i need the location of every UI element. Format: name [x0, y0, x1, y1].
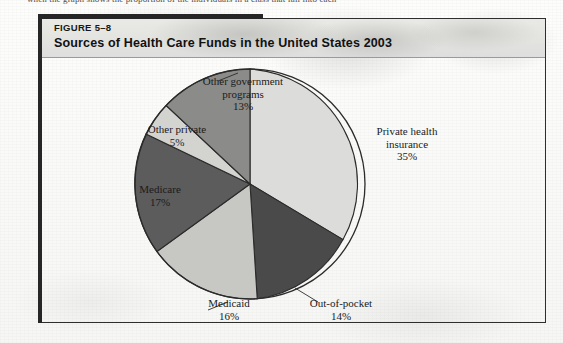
pie-value-out-of-pocket: 14%	[286, 310, 396, 323]
pie-label-private-health-insurance: Private health insurance 35%	[350, 125, 464, 163]
figure-header-banner: FIGURE 5–8 Sources of Health Care Funds …	[42, 19, 545, 58]
pie-chart-area: Other government programs 13% Other priv…	[42, 57, 545, 322]
pie-label-other-private-line1: Other private	[148, 123, 206, 135]
pie-label-private-insurance-line1: Private health	[377, 125, 438, 137]
figure-box: FIGURE 5–8 Sources of Health Care Funds …	[42, 18, 546, 323]
pie-label-medicare-line1: Medicare	[139, 183, 181, 195]
pie-value-other-private: 5%	[125, 136, 229, 149]
pie-label-other-private: Other private 5%	[125, 123, 229, 148]
figure-title: Sources of Health Care Funds in the Unit…	[54, 36, 392, 50]
pie-label-other-government-programs: Other government programs 13%	[178, 75, 308, 113]
figure-number: FIGURE 5–8	[54, 22, 111, 33]
pie-label-out-of-pocket-line1: Out-of-pocket	[310, 297, 372, 309]
cut-off-body-text: when the graph shows the proportion of t…	[27, 0, 447, 6]
pie-label-medicaid-line1: Medicaid	[208, 297, 250, 309]
pie-value-other-government: 13%	[178, 100, 308, 113]
pie-value-medicaid: 16%	[187, 310, 271, 323]
pie-value-private-insurance: 35%	[350, 150, 464, 163]
pie-value-medicare: 17%	[118, 196, 202, 209]
pie-label-other-government-line1: Other government	[203, 75, 283, 87]
pie-label-other-government-line2: programs	[222, 88, 264, 100]
pie-label-medicaid: Medicaid 16%	[187, 297, 271, 322]
pie-label-medicare: Medicare 17%	[118, 183, 202, 208]
pie-label-private-insurance-line2: insurance	[386, 138, 428, 150]
pie-label-out-of-pocket: Out-of-pocket 14%	[286, 297, 396, 322]
